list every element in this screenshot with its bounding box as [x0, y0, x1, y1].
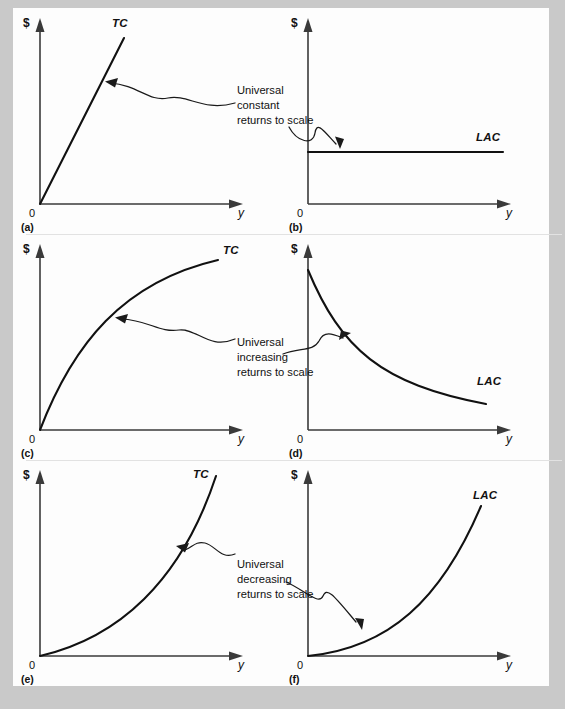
panel-f-plot [281, 460, 549, 686]
panel-b-label: (b) [289, 222, 302, 233]
curve-tc [40, 260, 218, 430]
y-axis-arrowhead [36, 470, 45, 484]
annotation-connector [185, 543, 235, 556]
annotation-increasing-returns: Universal increasing returns to scale [237, 335, 313, 379]
panel-a-curve-label: TC [112, 18, 128, 30]
annotation-connector [289, 127, 336, 144]
panel-c-y-axis-label: $ [23, 243, 30, 255]
panel-d: $ LAC 0 y (d) [281, 234, 549, 460]
annotation-decreasing-line-2: decreasing [237, 572, 313, 587]
annotation-increasing-line-2: increasing [237, 350, 313, 365]
panel-b-origin-label: 0 [297, 208, 303, 219]
panel-e-label: (e) [21, 674, 34, 685]
curve-lac [308, 270, 486, 404]
panel-d-curve-label: LAC [477, 376, 501, 388]
panel-c-label: (c) [21, 448, 34, 459]
panel-c-x-axis-label: y [238, 433, 244, 445]
y-axis-arrowhead [304, 470, 313, 484]
panel-d-origin-label: 0 [297, 434, 303, 445]
panel-a-label: (a) [21, 222, 34, 233]
panel-b-y-axis-label: $ [291, 17, 298, 29]
annotation-connector [121, 319, 235, 342]
y-axis-arrowhead [304, 244, 313, 258]
panel-a-x-axis-label: y [238, 207, 244, 219]
panel-f-origin-label: 0 [297, 660, 303, 671]
panel-a-y-axis-label: $ [23, 17, 30, 29]
curve-tc [40, 38, 124, 204]
annotation-constant-line-1: Universal [237, 83, 313, 98]
annotation-decreasing-line-3: returns to scale [237, 587, 313, 602]
panel-b: $ LAC 0 y (b) [281, 8, 549, 234]
y-axis-arrowhead [304, 18, 313, 32]
panel-f-x-axis-label: y [506, 659, 512, 671]
annotation-constant-returns: Universal constant returns to scale [237, 83, 313, 127]
panel-d-x-axis-label: y [506, 433, 512, 445]
annotation-arrowhead [335, 137, 344, 150]
annotation-constant-line-2: constant [237, 98, 313, 113]
y-axis-arrowhead [36, 18, 45, 32]
annotation-decreasing-line-1: Universal [237, 557, 313, 572]
annotation-arrowhead [115, 314, 128, 324]
panel-f-y-axis-label: $ [291, 469, 298, 481]
annotation-increasing-line-3: returns to scale [237, 365, 313, 380]
panel-d-y-axis-label: $ [291, 243, 298, 255]
panel-c-origin-label: 0 [29, 434, 35, 445]
y-axis-arrowhead [36, 244, 45, 258]
curve-lac [308, 506, 481, 656]
panel-b-curve-label: LAC [476, 132, 500, 144]
annotation-arrowhead [355, 618, 364, 630]
panel-a-origin-label: 0 [29, 208, 35, 219]
annotation-connector [110, 83, 235, 106]
panel-d-plot [281, 234, 549, 460]
annotation-increasing-line-1: Universal [237, 335, 313, 350]
panel-e-y-axis-label: $ [23, 469, 30, 481]
panel-e-x-axis-label: y [238, 659, 244, 671]
curve-tc [40, 476, 216, 656]
panel-f: $ LAC 0 y (f) [281, 460, 549, 686]
panel-f-label: (f) [289, 674, 300, 685]
annotation-arrowhead [105, 78, 118, 88]
panel-d-label: (d) [289, 448, 302, 459]
figure-sheet: $ TC 0 y (a) $ LAC 0 y (b) [13, 8, 549, 686]
panel-f-curve-label: LAC [473, 490, 497, 502]
panel-c-curve-label: TC [223, 245, 239, 257]
panel-e-curve-label: TC [193, 469, 209, 481]
annotation-constant-line-3: returns to scale [237, 113, 313, 128]
panel-e-origin-label: 0 [29, 660, 35, 671]
panel-b-x-axis-label: y [506, 207, 512, 219]
figure-canvas: $ TC 0 y (a) $ LAC 0 y (b) [0, 0, 565, 709]
annotation-decreasing-returns: Universal decreasing returns to scale [237, 557, 313, 601]
panel-b-plot [281, 8, 549, 234]
